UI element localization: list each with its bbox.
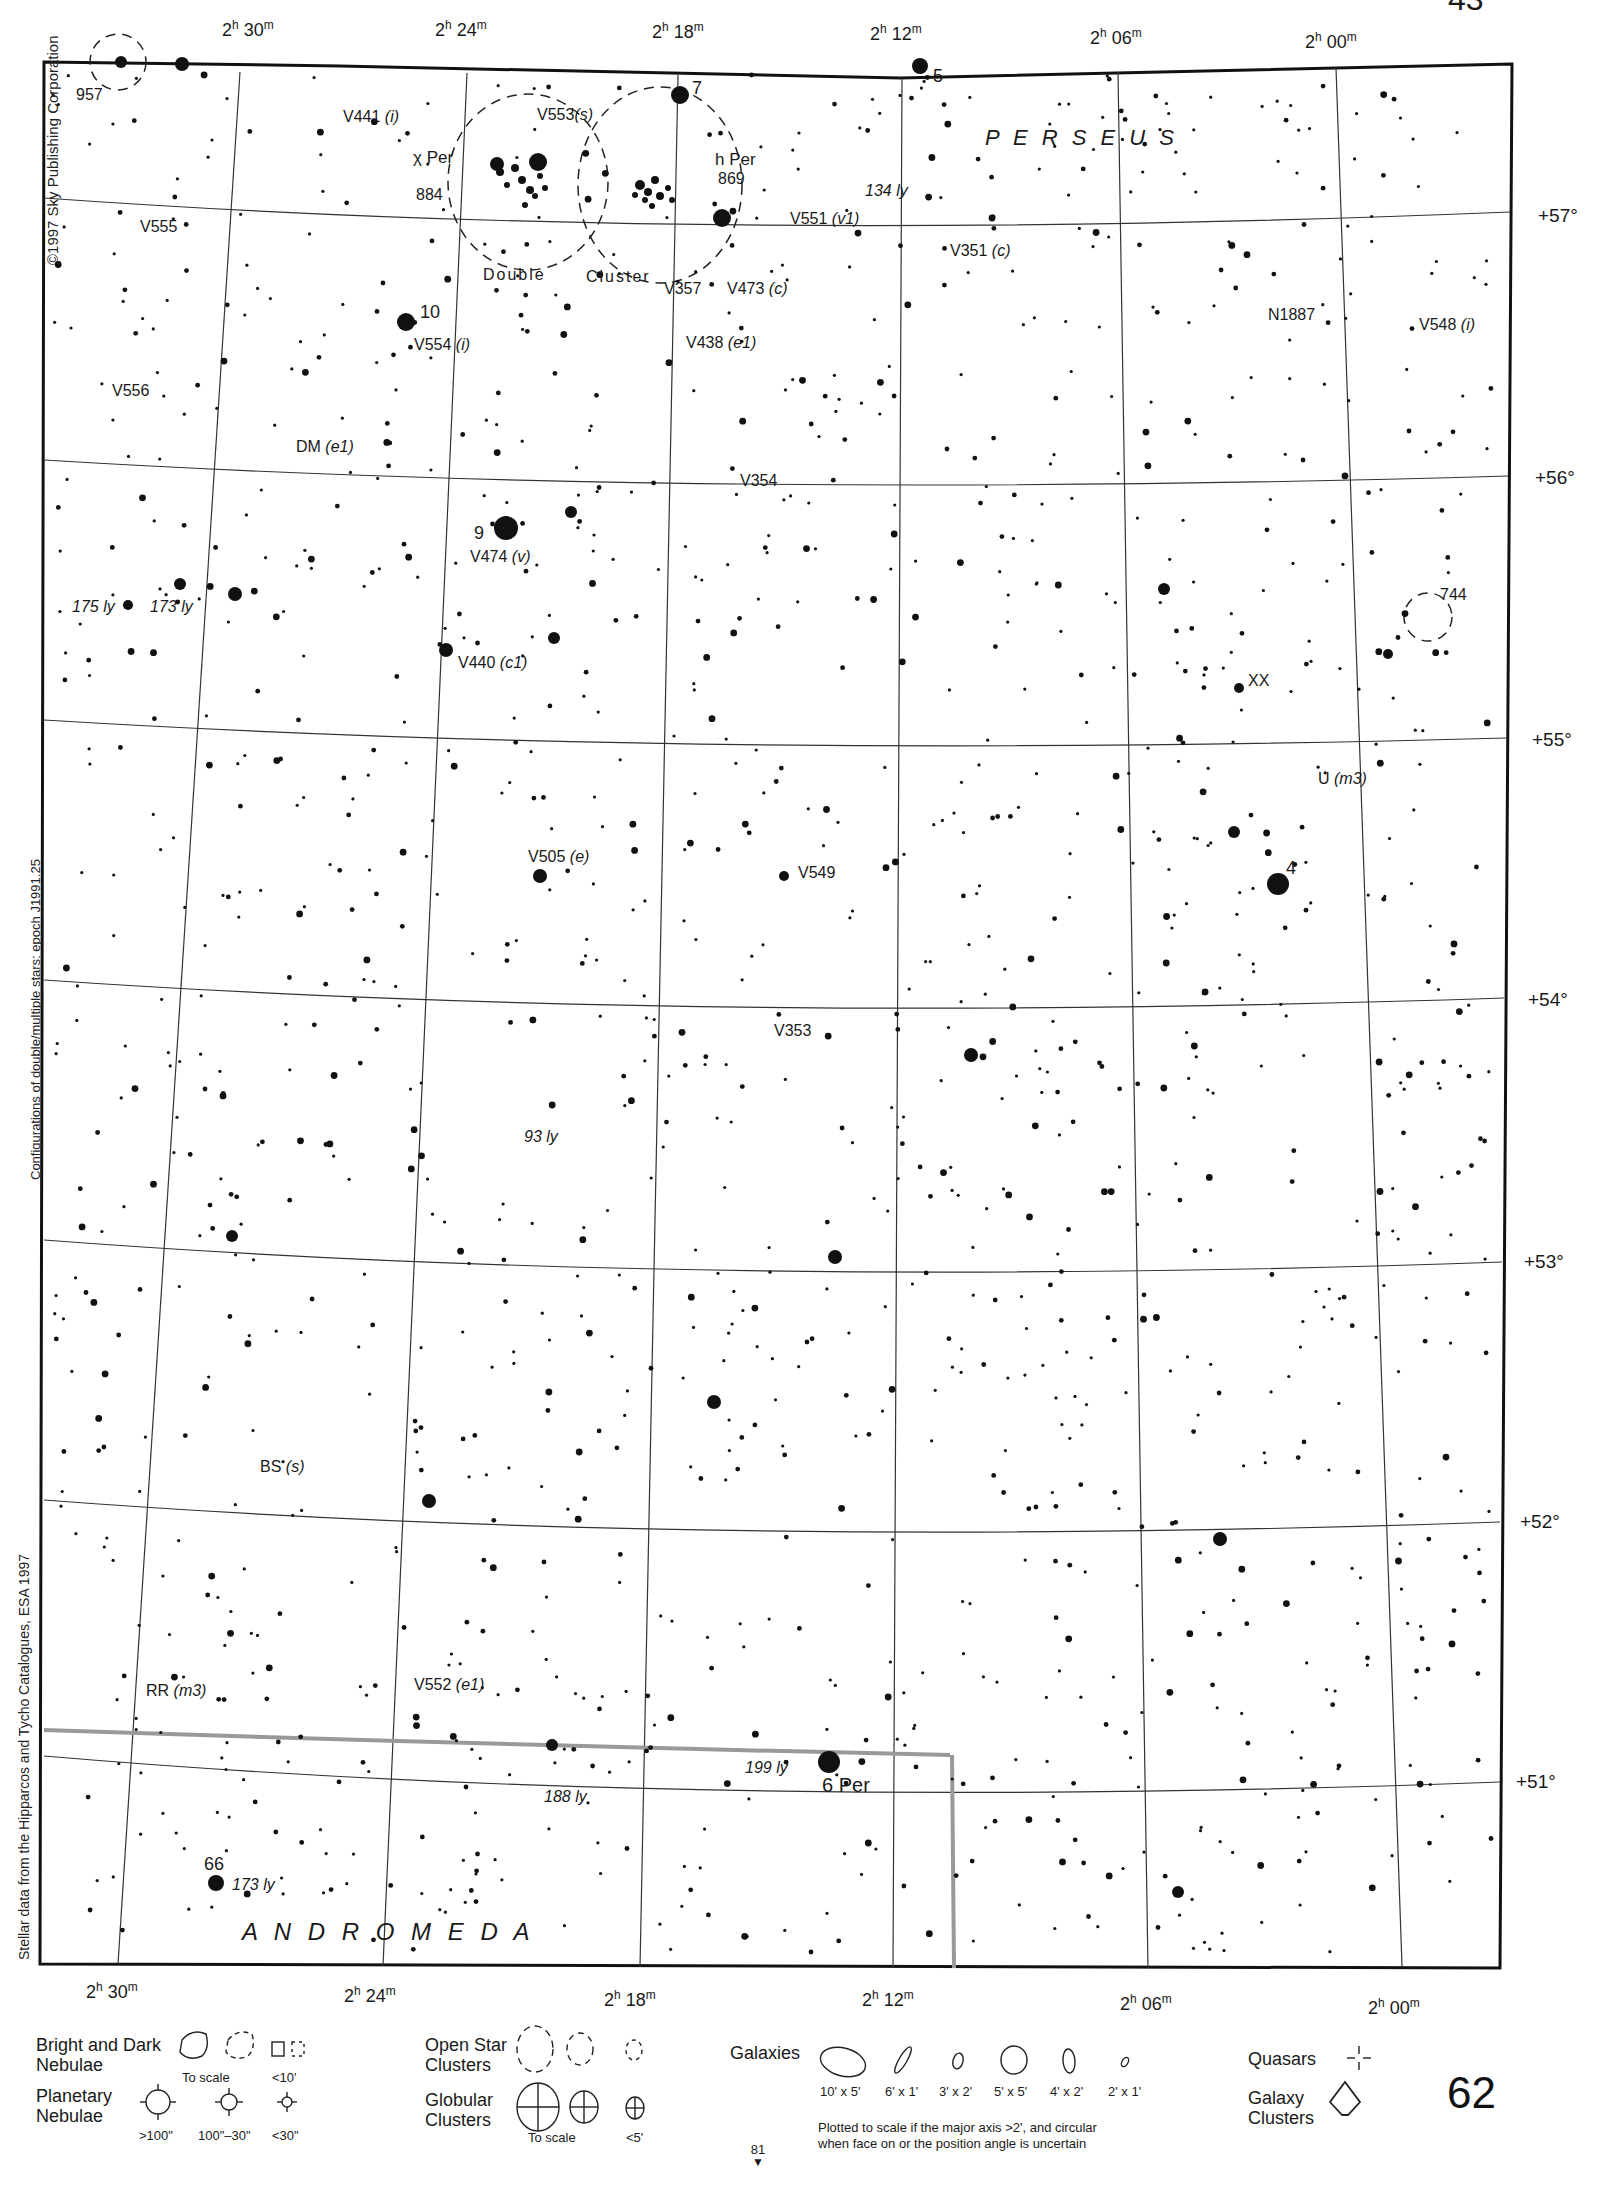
svg-text:V552 (e1): V552 (e1) xyxy=(414,1676,484,1693)
label-v440: V440 xyxy=(458,654,495,671)
legend-planetary-label: Planetary Nebulae xyxy=(36,2086,136,2126)
chart-frame xyxy=(40,62,1512,1968)
label-v553: V553 xyxy=(537,106,574,123)
label-v548: V548 xyxy=(1419,316,1456,333)
data-source-note: Stellar data from the Hipparcos and Tych… xyxy=(16,1554,32,1960)
svg-text:V554 (i): V554 (i) xyxy=(414,336,470,353)
legend-symbols xyxy=(140,2026,1371,2131)
svg-text:+51°: +51° xyxy=(1516,1771,1556,1792)
page-number: 62 xyxy=(1447,2068,1496,2118)
label-v351: V351 xyxy=(950,242,987,259)
label-v505: V505 xyxy=(528,848,565,865)
svg-text:BS (s): BS (s) xyxy=(260,1458,304,1475)
label-v441: V441 xyxy=(343,108,380,125)
svg-text:+54°: +54° xyxy=(1528,989,1568,1010)
faint-stars xyxy=(51,72,1493,1955)
svg-text:2h 30m: 2h 30m xyxy=(222,18,274,40)
label-star-4: 4 xyxy=(1286,858,1296,878)
legend-planetary-size-1: >100" xyxy=(139,2126,173,2146)
label-double: Double xyxy=(483,266,546,283)
legend-nebulae-small: <10' xyxy=(272,2068,297,2088)
legend-galaxy-size-3: 3' x 2' xyxy=(939,2082,972,2102)
label-bs-type: (s) xyxy=(286,1458,305,1475)
label-star-5: 5 xyxy=(933,66,943,86)
svg-text:2h 06m: 2h 06m xyxy=(1120,1992,1172,2014)
label-chi-per: χ Per xyxy=(413,148,453,167)
legend-globular-label: Globular Clusters xyxy=(425,2090,515,2130)
label-v440-type: (c1) xyxy=(500,654,528,671)
dec-labels: +57° +56° +55° +54° +53° +52° +51° xyxy=(1516,205,1578,1792)
svg-text:2h 18m: 2h 18m xyxy=(604,1988,656,2010)
label-ngc869: 869 xyxy=(718,170,745,187)
legend-galaxies-label: Galaxies xyxy=(730,2043,800,2063)
constellation-andromeda: A N D R O M E D A xyxy=(240,1918,535,1945)
label-v438-type: (e1) xyxy=(728,334,756,351)
dec-grid xyxy=(44,198,1510,1792)
constellation-perseus: P E R S E U S xyxy=(985,125,1178,150)
svg-text:V505 (e): V505 (e) xyxy=(528,848,589,865)
ra-labels-top: 2h 30m 2h 24m 2h 18m 2h 12m 2h 06m 2h 00… xyxy=(222,18,1357,52)
svg-text:2h 12m: 2h 12m xyxy=(862,1988,914,2010)
svg-text:U (m3): U (m3) xyxy=(1318,770,1367,787)
legend-galaxy-clusters-label: Galaxy Clusters xyxy=(1248,2088,1328,2128)
legend-galaxy-note-2: when face on or the position angle is un… xyxy=(818,2134,1086,2154)
svg-text:V473 (c): V473 (c) xyxy=(727,280,787,297)
legend-nebulae-label: Bright and Dark Nebulae xyxy=(36,2035,176,2075)
svg-text:V438 (e1): V438 (e1) xyxy=(686,334,756,351)
label-v555: V555 xyxy=(140,218,177,235)
label-v552-type: (e1) xyxy=(456,1676,484,1693)
legend-galaxy-size-4: 5' x 5' xyxy=(994,2082,1027,2102)
label-distance-188ly: 188 ly xyxy=(544,1788,588,1805)
ra-grid xyxy=(118,68,1402,1968)
label-cluster: Cluster xyxy=(586,268,651,285)
label-dm-type: (e1) xyxy=(325,438,353,455)
svg-text:2h 24m: 2h 24m xyxy=(435,18,487,40)
svg-text:RR (m3): RR (m3) xyxy=(146,1682,206,1699)
label-distance-173ly-b: 173 ly xyxy=(232,1876,276,1893)
label-v556: V556 xyxy=(112,382,149,399)
label-v548-type: (i) xyxy=(1461,316,1475,333)
svg-text:2h 12m: 2h 12m xyxy=(870,22,922,44)
label-dm: DM xyxy=(296,438,321,455)
legend-planetary-size-2: 100"–30" xyxy=(198,2126,251,2146)
svg-text:2h 00m: 2h 00m xyxy=(1305,30,1357,52)
label-distance-134ly: 134 ly xyxy=(865,182,909,199)
label-ngc744: 744 xyxy=(1440,586,1467,603)
svg-text:V441 (i): V441 (i) xyxy=(343,108,399,125)
ra-labels-bottom: 2h 30m 2h 24m 2h 18m 2h 12m 2h 06m 2h 00… xyxy=(86,1980,1420,2018)
legend-globular-scale: To scale xyxy=(528,2128,576,2148)
star-chart: 957 7 5 V441 (i) V553(s) χ Per 884 h Per… xyxy=(0,0,1608,2185)
label-distance-173ly-a: 173 ly xyxy=(150,598,194,615)
label-distance-93ly: 93 ly xyxy=(524,1128,559,1145)
label-star-10: 10 xyxy=(420,302,440,322)
epoch-note: Configurations of double/multiple stars:… xyxy=(28,859,43,1180)
label-h-per: h Per xyxy=(715,150,756,169)
label-v549: V549 xyxy=(798,864,835,881)
next-page-link[interactable]: 81 ▼ xyxy=(748,2142,768,2167)
label-v351-type: (c) xyxy=(992,242,1011,259)
label-xx: XX xyxy=(1248,672,1270,689)
svg-text:V553(s): V553(s) xyxy=(537,106,593,123)
svg-text:V440 (c1): V440 (c1) xyxy=(458,654,527,671)
legend-galaxy-size-1: 10' x 5' xyxy=(820,2082,860,2102)
label-v553-type: (s) xyxy=(574,106,593,123)
label-v551-type: (v1) xyxy=(832,210,860,227)
copyright-text: ©1997 Sky Publishing Corporation xyxy=(44,35,61,265)
legend-nebulae-scale: To scale xyxy=(182,2068,230,2088)
label-distance-199ly: 199 ly xyxy=(745,1759,789,1776)
legend-galaxy-size-6: 2' x 1' xyxy=(1108,2082,1141,2102)
label-star-7: 7 xyxy=(692,78,702,98)
svg-text:2h 00m: 2h 00m xyxy=(1368,1996,1420,2018)
svg-text:+53°: +53° xyxy=(1524,1251,1564,1272)
svg-text:+56°: +56° xyxy=(1535,467,1575,488)
label-rr: RR xyxy=(146,1682,169,1699)
label-v357: V357 xyxy=(664,280,701,297)
top-right-page-number-partial: 43 xyxy=(1448,0,1484,17)
label-v473: V473 xyxy=(727,280,764,297)
label-v473-type: (c) xyxy=(769,280,788,297)
legend-galaxy-size-2: 6' x 1' xyxy=(885,2082,918,2102)
legend-globular-small: <5' xyxy=(626,2128,643,2148)
label-v505-type: (e) xyxy=(570,848,590,865)
legend-quasars-label: Quasars xyxy=(1248,2049,1316,2069)
label-cluster-957: 957 xyxy=(76,86,103,103)
